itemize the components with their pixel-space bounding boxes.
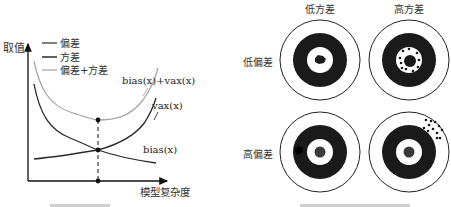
total-label-leader [143,88,148,96]
row-label-low-bias: 低偏差 [243,56,273,68]
optimal-point-axis [96,179,101,184]
bias-variance-targets: 低方差 高方差 低偏差 高偏差 [243,3,449,192]
total-curve-label: bias(x)+vax(x) [122,75,195,86]
optimal-point-intersection [96,148,101,153]
optimal-point-total [96,118,101,123]
row-label-high-bias: 高偏差 [243,148,273,160]
x-axis-label: 模型复杂度 [140,186,191,198]
target-low-bias-low-variance [280,20,360,100]
legend-label-total: 偏差+方差 [60,64,108,76]
bias-variance-chart: 取值 模型复杂度 偏差 方差 偏差+方差 bias(x)+vax(x) vax(… [3,37,195,198]
variance-label-leader [154,112,158,120]
figure-canvas: 取值 模型复杂度 偏差 方差 偏差+方差 bias(x)+vax(x) vax(… [0,0,451,207]
column-label-low-variance: 低方差 [305,3,335,15]
target-low-bias-high-variance [369,20,449,100]
bias-curve [34,98,156,159]
clipped-caption-fragments [50,204,410,207]
target-high-bias-low-variance [280,112,360,192]
y-axis-label: 取值 [3,42,25,55]
legend-label-bias: 偏差 [60,37,80,49]
target-high-bias-high-variance [369,112,449,192]
bias-curve-label: bias(x) [143,144,177,155]
column-label-high-variance: 高方差 [394,3,424,15]
variance-curve-label: vax(x) [151,100,183,111]
legend: 偏差 方差 偏差+方差 [42,37,108,76]
legend-label-variance: 方差 [60,51,80,63]
